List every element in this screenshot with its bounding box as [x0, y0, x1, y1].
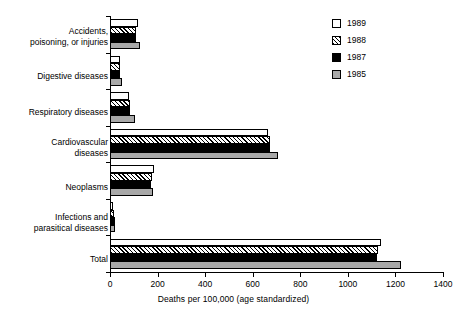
- x-axis-tick: [348, 273, 349, 277]
- bar: [110, 181, 151, 189]
- bar: [110, 100, 130, 108]
- bar: [110, 63, 120, 71]
- x-axis-tick-label: 0: [90, 279, 130, 289]
- bar: [110, 217, 115, 225]
- legend-label: 1988: [347, 33, 366, 48]
- legend-label: 1985: [347, 67, 366, 82]
- bar: [110, 173, 152, 181]
- bar: [110, 165, 154, 173]
- bar: [110, 246, 378, 254]
- bar: [110, 78, 122, 86]
- gray-square-swatch: [332, 70, 341, 79]
- y-axis-tick: [106, 235, 110, 236]
- y-axis-tick: [106, 162, 110, 163]
- category-label: Infections and parasitical diseases: [2, 212, 108, 233]
- legend-item: 1987: [332, 50, 442, 67]
- category-label: Digestive diseases: [2, 71, 108, 82]
- bar: [110, 129, 268, 137]
- y-axis-tick: [106, 89, 110, 90]
- category-label: Total: [2, 254, 108, 265]
- bar: [110, 107, 130, 115]
- bar: [110, 202, 113, 210]
- legend-item: 1985: [332, 67, 442, 84]
- bar: [110, 261, 401, 269]
- bar: [110, 225, 115, 233]
- category-axis-labels: Accidents, poisoning, or injuries Digest…: [0, 0, 108, 325]
- y-axis-tick: [106, 199, 110, 200]
- bar: [110, 19, 138, 27]
- x-axis-tick: [395, 273, 396, 277]
- bar: [110, 152, 278, 160]
- x-axis-tick: [158, 273, 159, 277]
- x-axis-tick-label: 1000: [328, 279, 368, 289]
- bar: [110, 27, 136, 35]
- x-axis-tick: [205, 273, 206, 277]
- x-axis-tick-label: 800: [280, 279, 320, 289]
- bar: [110, 239, 381, 247]
- bar-chart: Accidents, poisoning, or injuries Digest…: [0, 0, 467, 325]
- x-axis-tick: [110, 273, 111, 277]
- x-axis-line: [110, 272, 444, 273]
- bar: [110, 254, 377, 262]
- hatched-square-swatch: [332, 36, 341, 45]
- x-axis-tick-label: 1200: [375, 279, 415, 289]
- bar: [110, 115, 135, 123]
- x-axis-tick-label: 200: [138, 279, 178, 289]
- x-axis-tick-label: 600: [233, 279, 273, 289]
- legend-label: 1989: [347, 16, 366, 31]
- bar: [110, 71, 120, 79]
- bar: [110, 34, 136, 42]
- bar: [110, 188, 153, 196]
- category-label: Cardiovascular diseases: [2, 137, 108, 158]
- bar: [110, 42, 140, 50]
- x-axis-tick-label: 400: [185, 279, 225, 289]
- bar: [110, 210, 114, 218]
- x-axis-tick: [253, 273, 254, 277]
- legend-item: 1989: [332, 16, 442, 33]
- bar: [110, 56, 120, 64]
- x-axis-tick-label: 1400: [423, 279, 463, 289]
- y-axis-tick: [106, 53, 110, 54]
- category-label: Respiratory diseases: [2, 107, 108, 118]
- x-axis-tick: [300, 273, 301, 277]
- legend-item: 1988: [332, 33, 442, 50]
- legend-label: 1987: [347, 50, 366, 65]
- x-axis-title: Deaths per 100,000 (age standardized): [0, 294, 467, 304]
- black-square-swatch: [332, 53, 341, 62]
- legend: 1989 1988 1987 1985: [332, 16, 442, 84]
- bar: [110, 136, 270, 144]
- bar: [110, 144, 270, 152]
- x-axis-tick: [443, 273, 444, 277]
- category-label: Neoplasms: [2, 182, 108, 193]
- y-axis-tick: [106, 126, 110, 127]
- open-square-swatch: [332, 19, 341, 28]
- category-label: Accidents, poisoning, or injuries: [2, 26, 108, 47]
- y-axis-tick: [106, 16, 110, 17]
- bar: [110, 92, 129, 100]
